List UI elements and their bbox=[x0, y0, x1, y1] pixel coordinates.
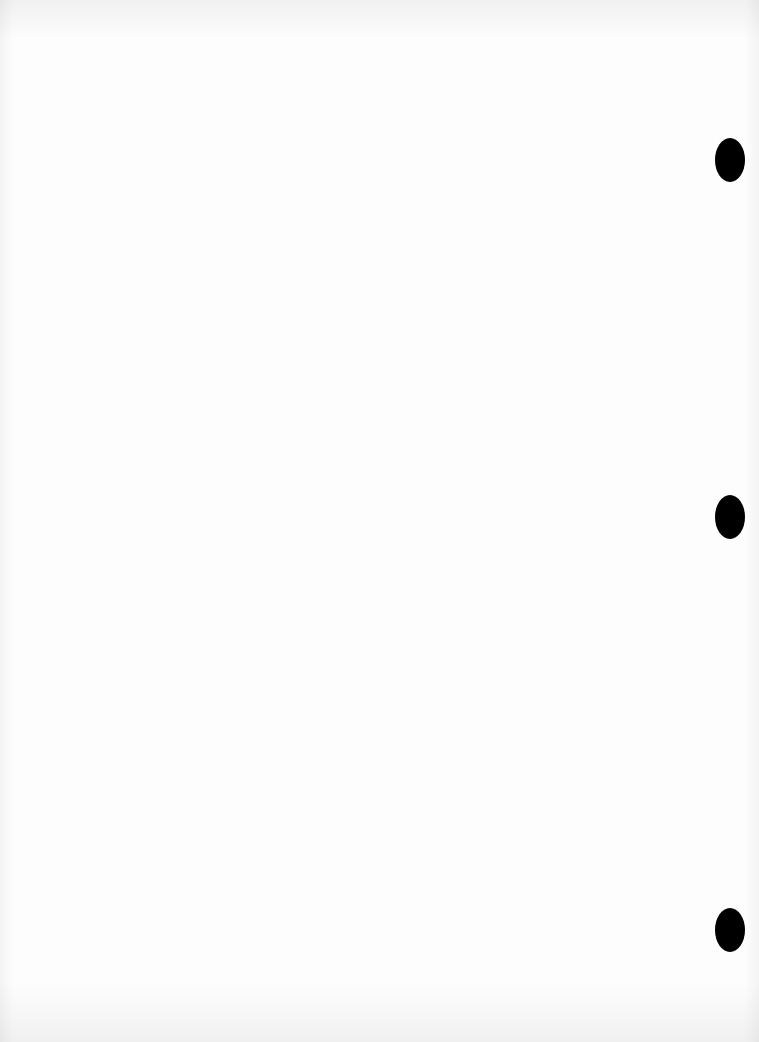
punch-hole-icon bbox=[715, 495, 745, 539]
blank-page bbox=[0, 0, 759, 1042]
punch-hole-icon bbox=[715, 908, 745, 952]
punch-hole-icon bbox=[715, 138, 745, 182]
